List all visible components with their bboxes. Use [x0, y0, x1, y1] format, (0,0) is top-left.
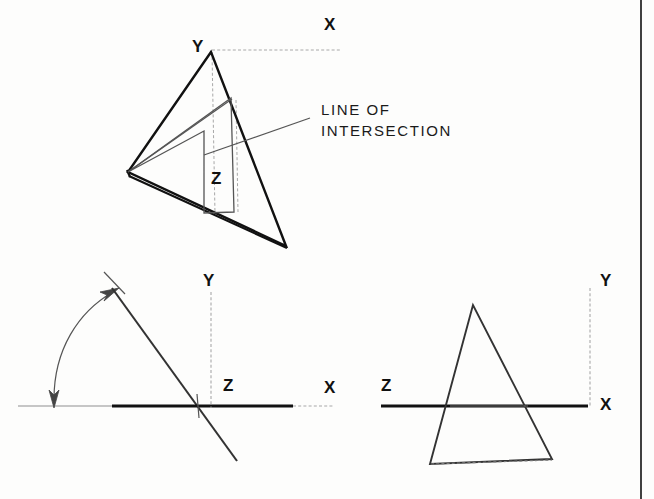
auxiliary-view-label-z: Z: [381, 377, 392, 395]
drawing-sheet: Y X Z LINE OF INTERSECTION Y Z X Y Z X: [0, 0, 654, 499]
front-view-label-y: Y: [203, 272, 215, 290]
technical-drawing-canvas: [0, 0, 654, 499]
pictorial-main-triangle: [128, 52, 286, 246]
pictorial-vertical-hidden-line: [212, 52, 215, 214]
pictorial-label-z: Z: [211, 170, 222, 188]
front-view: [18, 272, 334, 461]
pictorial-label-x: X: [324, 16, 336, 34]
auxiliary-view-label-x: X: [600, 396, 612, 414]
front-view-label-x: X: [324, 379, 336, 397]
auxiliary-view: [381, 288, 590, 464]
annotation-line-of-intersection-line1: LINE OF: [321, 100, 391, 120]
pictorial-label-y: Y: [192, 38, 204, 56]
auxiliary-view-label-y: Y: [600, 272, 612, 290]
annotation-leader-line: [204, 118, 310, 155]
pictorial-view: [127, 50, 341, 248]
front-view-label-z: Z: [223, 377, 234, 395]
annotation-line-of-intersection-line2: INTERSECTION: [321, 121, 452, 141]
auxiliary-view-true-shape-triangle: [430, 305, 552, 464]
front-view-oblique-plane-line: [112, 288, 237, 461]
rotation-arc: [54, 292, 113, 399]
pictorial-line-of-intersection: [128, 99, 232, 172]
